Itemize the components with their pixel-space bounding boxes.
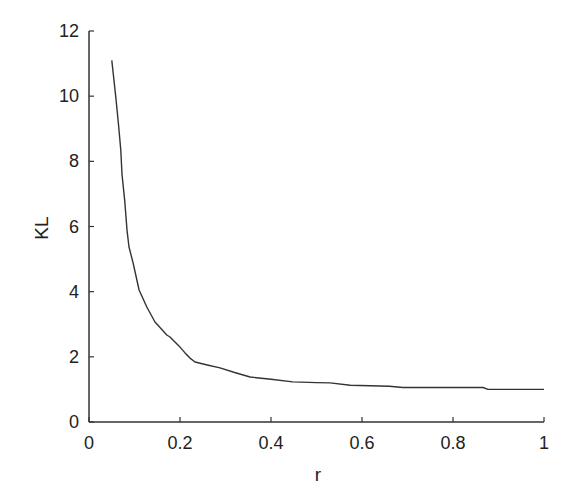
x-tick-label: 0.6: [349, 433, 374, 453]
y-axis-label: KL: [31, 216, 52, 239]
kl-curve: [112, 60, 544, 389]
x-tick-label: 0.2: [167, 433, 192, 453]
x-axis-label: r: [315, 464, 322, 485]
y-tick-label: 0: [69, 412, 79, 432]
y-tick-label: 6: [69, 217, 79, 237]
kl-vs-r-chart: 00.20.40.60.81 024681012 r KL: [0, 0, 572, 496]
plot-area: [112, 60, 544, 389]
y-tick-label: 4: [69, 282, 79, 302]
y-tick-label: 2: [69, 347, 79, 367]
y-tick-label: 10: [59, 86, 79, 106]
x-tick-label: 0.4: [258, 433, 283, 453]
x-tick-label: 1: [539, 433, 549, 453]
y-tick-label: 12: [59, 21, 79, 41]
x-tick-label: 0.8: [440, 433, 465, 453]
y-tick-label: 8: [69, 151, 79, 171]
x-tick-label: 0: [84, 433, 94, 453]
